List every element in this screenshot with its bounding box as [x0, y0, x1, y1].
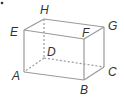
edge-DA — [24, 58, 44, 72]
edge-BC — [84, 67, 104, 80]
rectangular-prism-diagram: H E F G D A C B — [0, 0, 124, 101]
vertex-label-a: A — [11, 69, 20, 83]
edge-AB — [24, 72, 84, 80]
vertex-label-d: D — [47, 45, 56, 59]
edge-EF — [24, 30, 84, 39]
edge-EH — [24, 19, 44, 30]
vertex-label-e: E — [10, 25, 19, 39]
bullet-dot — [1, 2, 4, 5]
vertex-label-c: C — [108, 65, 117, 79]
vertex-label-b: B — [80, 83, 88, 97]
vertex-label-g: G — [108, 19, 117, 33]
hidden-edges — [24, 19, 104, 72]
vertex-label-f: F — [82, 26, 90, 40]
vertex-label-h: H — [40, 3, 49, 17]
edge-HG — [44, 19, 104, 27]
edge-DC — [44, 58, 104, 67]
solid-edges — [24, 19, 104, 80]
